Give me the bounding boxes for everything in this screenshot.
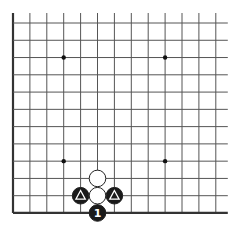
white-stone[interactable] [89,170,106,187]
star-point-icon [163,55,167,59]
go-board-svg[interactable]: 1 [0,0,238,226]
black-stone[interactable] [106,187,123,204]
go-board[interactable]: 1 [0,0,238,226]
star-point-icon [62,159,66,163]
board-grid [13,13,228,213]
white-stone-icon [89,187,106,204]
star-point-icon [62,55,66,59]
white-stone[interactable] [89,187,106,204]
black-stone[interactable]: 1 [89,205,106,222]
white-stone-icon [89,170,106,187]
move-number-label: 1 [94,207,102,220]
star-point-icon [163,159,167,163]
black-stone[interactable] [72,187,89,204]
